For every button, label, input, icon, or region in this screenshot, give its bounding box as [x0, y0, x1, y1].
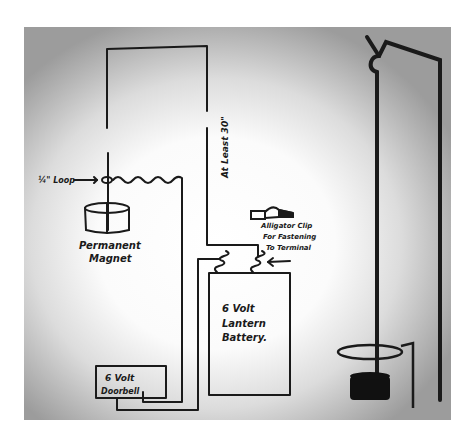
doorbell-label-line1: 6 Volt: [105, 373, 135, 383]
pendulum-weight: [350, 372, 390, 400]
doorbell-label-line2: Doorbell: [101, 387, 139, 396]
magnet-label-line1: Permanent: [79, 240, 142, 251]
loop-label: ¼" Loop: [38, 175, 75, 185]
battery-label-line2: Lantern: [222, 318, 266, 329]
top-wire-loop: [107, 46, 207, 238]
clip-label-line2: For Fastening: [263, 233, 316, 241]
circuit-diagram: ¼" Loop At Least 30" Permanent Magnet Al…: [0, 0, 475, 437]
magnet-label-line2: Magnet: [89, 253, 133, 264]
clip-label-line3: To Terminal: [266, 244, 312, 252]
battery-label-line1: 6 Volt: [222, 303, 256, 314]
alligator-clip: [251, 207, 293, 219]
permanent-magnet: [85, 203, 129, 233]
battery-label-line3: Battery.: [222, 332, 267, 343]
wire-length-label: At Least 30": [220, 116, 230, 179]
clip-label-line1: Alligator Clip: [260, 222, 312, 230]
